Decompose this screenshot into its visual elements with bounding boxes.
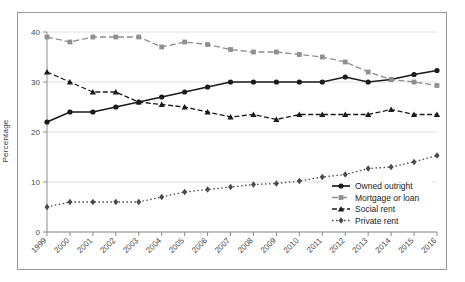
data-point — [274, 79, 279, 84]
legend-label: Private rent — [355, 216, 399, 226]
data-point — [339, 195, 344, 200]
data-point — [182, 104, 188, 110]
legend-label: Owned outright — [355, 181, 413, 191]
y-tick-label: 20 — [31, 128, 40, 137]
x-tick-label: 2007 — [213, 236, 232, 255]
data-point — [297, 52, 302, 57]
data-point — [412, 80, 417, 85]
data-point — [320, 174, 325, 180]
data-point — [182, 40, 187, 45]
x-tick-label: 2009 — [259, 236, 278, 255]
x-tick-label: 2011 — [305, 236, 324, 255]
data-point — [67, 199, 72, 205]
legend-label: Social rent — [355, 204, 396, 214]
chart-legend: Owned outrightMortgage or loanSocial ren… — [327, 177, 432, 231]
x-tick-label: 2010 — [282, 236, 301, 255]
data-point — [90, 109, 95, 114]
data-point — [338, 183, 343, 188]
x-tick-label: 2000 — [52, 236, 71, 255]
x-tick-label: 2005 — [167, 236, 186, 255]
data-point — [297, 79, 302, 84]
data-point — [320, 79, 325, 84]
data-point — [159, 194, 164, 200]
x-tick-label: 2008 — [236, 236, 255, 255]
data-point — [113, 35, 118, 40]
data-point — [44, 69, 50, 75]
data-point — [435, 83, 440, 88]
data-point — [343, 74, 348, 79]
data-point — [297, 178, 302, 184]
x-tick-label: 1999 — [29, 236, 48, 255]
data-point — [274, 180, 279, 186]
data-point — [435, 152, 440, 158]
series-social-rent — [44, 69, 440, 122]
series-line — [47, 71, 437, 123]
series-line — [47, 72, 437, 120]
series-line — [47, 37, 437, 86]
x-tick-label: 2014 — [374, 236, 393, 255]
x-tick-label: 2006 — [190, 236, 209, 255]
data-point — [366, 70, 371, 75]
data-point — [159, 45, 164, 50]
x-tick-label: 2016 — [419, 236, 438, 255]
data-point — [343, 60, 348, 65]
data-point — [411, 72, 416, 77]
data-point — [45, 204, 50, 210]
data-point — [388, 106, 394, 112]
data-point — [182, 89, 187, 94]
data-point — [205, 84, 210, 89]
y-tick-label: 30 — [31, 78, 40, 87]
data-point — [182, 189, 187, 195]
data-point — [136, 35, 141, 40]
data-point — [90, 35, 95, 40]
data-point — [68, 40, 73, 45]
data-point — [205, 42, 210, 47]
data-point — [251, 50, 256, 55]
chart-screenshot: Percentage 01020304019992000200120022003… — [0, 0, 465, 282]
x-tick-label: 2001 — [75, 236, 94, 255]
data-point — [228, 79, 233, 84]
data-point — [159, 94, 164, 99]
data-point — [251, 79, 256, 84]
data-point — [434, 68, 439, 73]
line-chart: 0102030401999200020012002200320042005200… — [0, 0, 465, 282]
data-point — [205, 186, 210, 192]
data-point — [90, 199, 95, 205]
y-tick-label: 0 — [36, 228, 41, 237]
data-point — [274, 50, 279, 55]
y-tick-label: 40 — [31, 28, 40, 37]
data-point — [67, 109, 72, 114]
data-point — [366, 165, 371, 171]
data-point — [320, 55, 325, 60]
data-point — [389, 164, 394, 170]
data-point — [228, 184, 233, 190]
x-tick-label: 2013 — [351, 236, 370, 255]
data-point — [389, 77, 394, 82]
data-point — [343, 171, 348, 177]
data-point — [228, 47, 233, 52]
data-point — [136, 199, 141, 205]
data-point — [366, 79, 371, 84]
data-point — [113, 104, 118, 109]
data-point — [45, 35, 50, 40]
data-point — [113, 199, 118, 205]
x-tick-label: 2004 — [144, 236, 163, 255]
data-point — [412, 159, 417, 165]
x-tick-label: 2015 — [397, 236, 416, 255]
legend-label: Mortgage or loan — [355, 193, 420, 203]
x-tick-label: 2002 — [98, 236, 117, 255]
x-tick-label: 2003 — [121, 236, 140, 255]
data-point — [44, 119, 49, 124]
y-tick-label: 10 — [31, 178, 40, 187]
x-tick-label: 2012 — [328, 236, 347, 255]
